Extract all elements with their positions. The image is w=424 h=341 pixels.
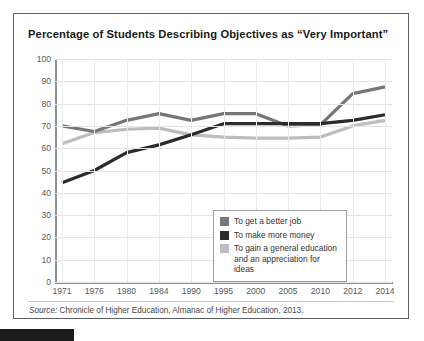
legend-swatch-icon: [220, 217, 229, 226]
source-label: Source:: [29, 306, 57, 315]
x-tick-label: 2005: [279, 286, 298, 296]
x-tick-label: 2014: [375, 286, 394, 296]
chart-title: Percentage of Students Describing Object…: [28, 28, 388, 40]
legend-item[interactable]: To gain a general education and an appre…: [220, 243, 340, 275]
x-tick-label: 1984: [149, 286, 168, 296]
legend-item-label: To get a better job: [234, 216, 301, 227]
gridline-vertical: [191, 59, 192, 282]
y-tick-label: 100: [25, 54, 51, 64]
gridline-horizontal: [55, 282, 392, 283]
x-tick-label: 1995: [214, 286, 233, 296]
x-tick-label: 1971: [52, 286, 71, 296]
source-citation: Chronicle of Higher Education, Almanac o…: [57, 306, 303, 315]
gridline-vertical: [127, 59, 128, 282]
legend-item[interactable]: To make more money: [220, 230, 340, 241]
x-tick-label: 2000: [246, 286, 265, 296]
legend-item[interactable]: To get a better job: [220, 216, 340, 227]
x-axis-tick-labels: 1971197619801984199019952000200520102012…: [55, 286, 392, 300]
x-tick-label: 1980: [117, 286, 136, 296]
legend-swatch-icon: [220, 231, 229, 240]
legend-item-label: To gain a general education and an appre…: [234, 243, 340, 275]
y-tick-label: 20: [25, 232, 51, 242]
y-tick-label: 40: [25, 188, 51, 198]
x-tick-label: 2010: [311, 286, 330, 296]
source-note: Source: Chronicle of Higher Education, A…: [29, 306, 303, 315]
y-tick-label: 50: [25, 166, 51, 176]
y-tick-label: 30: [25, 210, 51, 220]
gridline-vertical: [62, 59, 63, 282]
y-tick-label: 90: [25, 76, 51, 86]
source-divider: [28, 301, 394, 302]
gridline-vertical: [353, 59, 354, 282]
y-tick-label: 80: [25, 99, 51, 109]
chart-legend: To get a better jobTo make more moneyTo …: [213, 210, 347, 282]
y-axis-tick-labels: 1009080706050403020100: [23, 59, 51, 282]
x-tick-label: 2012: [343, 286, 362, 296]
gridline-vertical: [385, 59, 386, 282]
legend-swatch-icon: [220, 244, 229, 253]
y-tick-label: 60: [25, 143, 51, 153]
legend-item-label: To make more money: [234, 230, 315, 241]
gridline-vertical: [94, 59, 95, 282]
x-tick-label: 1976: [85, 286, 104, 296]
bottom-black-bar: [0, 329, 74, 341]
y-tick-label: 10: [25, 255, 51, 265]
chart-figure: Percentage of Students Describing Object…: [13, 13, 409, 319]
y-tick-label: 0: [25, 277, 51, 287]
y-tick-label: 70: [25, 121, 51, 131]
gridline-vertical: [159, 59, 160, 282]
x-tick-label: 1990: [182, 286, 201, 296]
